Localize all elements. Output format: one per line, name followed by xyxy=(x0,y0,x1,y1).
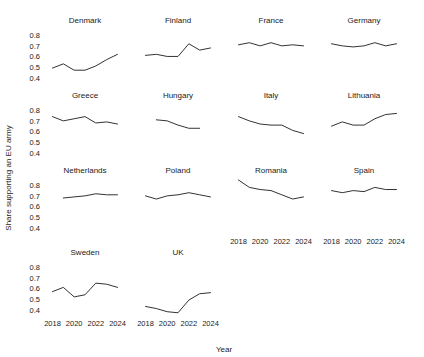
y-tick-label: 0.5 xyxy=(30,295,40,304)
facet-title-netherlands: Netherlands xyxy=(63,166,106,175)
x-axis-title: Year xyxy=(216,345,233,354)
y-tick-label: 0.8 xyxy=(30,106,40,115)
facet-panel-netherlands: Netherlands xyxy=(63,166,117,198)
series-line-netherlands xyxy=(63,194,117,198)
series-line-italy xyxy=(239,117,304,134)
y-tick-label: 0.5 xyxy=(30,138,40,147)
facet-title-poland: Poland xyxy=(166,166,191,175)
facet-title-romania: Romania xyxy=(255,166,288,175)
x-tick-label: 2024 xyxy=(388,237,405,246)
facet-title-france: France xyxy=(259,16,284,25)
facet-panel-denmark: Denmark xyxy=(53,16,118,70)
facet-panel-germany: Germany xyxy=(332,16,397,47)
x-tick-label: 2020 xyxy=(66,319,83,328)
facet-title-greece: Greece xyxy=(72,91,99,100)
x-tick-label: 2018 xyxy=(44,319,61,328)
y-tick-label: 0.5 xyxy=(30,63,40,72)
facet-title-spain: Spain xyxy=(354,166,374,175)
series-line-lithuania xyxy=(332,113,397,126)
series-line-denmark xyxy=(53,54,118,70)
x-tick-label: 2022 xyxy=(366,237,383,246)
facet-title-lithuania: Lithuania xyxy=(348,91,381,100)
x-tick-label: 2022 xyxy=(273,237,290,246)
x-tick-label: 2024 xyxy=(109,319,126,328)
chart-canvas: DenmarkFinlandFranceGermanyGreeceHungary… xyxy=(0,0,424,357)
facet-panel-uk: UK xyxy=(146,248,211,313)
facet-panel-italy: Italy xyxy=(239,91,304,134)
facet-panel-finland: Finland xyxy=(146,16,211,56)
x-tick-label: 2018 xyxy=(323,237,340,246)
y-axis-tick-layer: 0.40.50.60.70.80.40.50.60.70.80.40.50.60… xyxy=(30,31,40,314)
series-line-greece xyxy=(53,117,118,124)
series-line-france xyxy=(239,43,304,46)
x-tick-label: 2024 xyxy=(202,319,219,328)
facet-title-finland: Finland xyxy=(165,16,191,25)
panels-layer: DenmarkFinlandFranceGermanyGreeceHungary… xyxy=(53,16,397,313)
facet-panel-greece: Greece xyxy=(53,91,118,124)
x-tick-label: 2020 xyxy=(159,319,176,328)
faceted-line-chart: DenmarkFinlandFranceGermanyGreeceHungary… xyxy=(0,0,424,357)
facet-title-germany: Germany xyxy=(348,16,381,25)
facet-panel-poland: Poland xyxy=(146,166,211,199)
y-tick-label: 0.7 xyxy=(30,192,40,201)
facet-title-hungary: Hungary xyxy=(163,91,193,100)
facet-panel-spain: Spain xyxy=(332,166,397,193)
facet-title-sweden: Sweden xyxy=(71,248,100,257)
y-tick-label: 0.5 xyxy=(30,213,40,222)
x-tick-label: 2020 xyxy=(252,237,269,246)
x-tick-label: 2022 xyxy=(180,319,197,328)
facet-title-italy: Italy xyxy=(264,91,279,100)
y-tick-label: 0.6 xyxy=(30,127,40,136)
y-tick-label: 0.7 xyxy=(30,117,40,126)
y-tick-label: 0.4 xyxy=(30,74,40,83)
series-line-sweden xyxy=(53,283,118,297)
series-line-poland xyxy=(146,193,211,199)
y-tick-label: 0.7 xyxy=(30,274,40,283)
x-tick-label: 2022 xyxy=(87,319,104,328)
y-tick-label: 0.6 xyxy=(30,52,40,61)
facet-panel-hungary: Hungary xyxy=(156,91,199,128)
facet-title-denmark: Denmark xyxy=(69,16,102,25)
y-tick-label: 0.8 xyxy=(30,31,40,40)
y-axis-title: Share supporting an EU army xyxy=(4,125,13,230)
series-line-germany xyxy=(332,43,397,47)
facet-panel-lithuania: Lithuania xyxy=(332,91,397,126)
series-line-hungary xyxy=(156,120,199,128)
y-tick-label: 0.6 xyxy=(30,284,40,293)
series-line-uk xyxy=(146,293,211,313)
x-tick-label: 2018 xyxy=(230,237,247,246)
x-tick-label: 2024 xyxy=(295,237,312,246)
x-tick-label: 2020 xyxy=(345,237,362,246)
facet-panel-romania: Romania xyxy=(239,166,304,199)
series-line-romania xyxy=(239,180,304,199)
y-tick-label: 0.8 xyxy=(30,263,40,272)
facet-panel-france: France xyxy=(239,16,304,46)
y-tick-label: 0.4 xyxy=(30,149,40,158)
series-line-finland xyxy=(146,44,211,57)
facet-panel-sweden: Sweden xyxy=(53,248,118,297)
x-tick-label: 2018 xyxy=(137,319,154,328)
facet-title-uk: UK xyxy=(172,248,184,257)
y-tick-label: 0.4 xyxy=(30,306,40,315)
y-tick-label: 0.6 xyxy=(30,202,40,211)
series-line-spain xyxy=(332,187,397,192)
y-tick-label: 0.8 xyxy=(30,181,40,190)
y-tick-label: 0.7 xyxy=(30,42,40,51)
y-tick-label: 0.4 xyxy=(30,224,40,233)
